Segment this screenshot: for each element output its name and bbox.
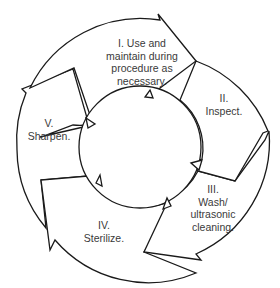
- step-1-line-4: necessary.: [87, 75, 197, 88]
- step-4-line-2: Sterilize.: [74, 232, 134, 245]
- step-2-line-2: Inspect.: [196, 105, 252, 118]
- step-3-line-4: cleaning.: [180, 221, 246, 234]
- step-1-line-1: I. Use and: [87, 37, 197, 50]
- step-3-label: III. Wash/ ultrasonic cleaning.: [180, 183, 246, 233]
- step-3-line-1: III.: [180, 183, 246, 196]
- step-4-label: IV. Sterilize.: [74, 219, 134, 244]
- step-3-line-3: ultrasonic: [180, 208, 246, 221]
- step-1-label: I. Use and maintain during procedure as …: [87, 37, 197, 87]
- step-2-line-1: II.: [196, 92, 252, 105]
- step-1-line-3: procedure as: [87, 62, 197, 75]
- step-3-line-2: Wash/: [180, 196, 246, 209]
- step-5-line-1: V.: [20, 117, 78, 130]
- step-4-line-1: IV.: [74, 219, 134, 232]
- step-1-line-2: maintain during: [87, 50, 197, 63]
- step-2-label: II. Inspect.: [196, 92, 252, 117]
- step-5-label: V. Sharpen.: [20, 117, 78, 142]
- step-5-line-2: Sharpen.: [20, 130, 78, 143]
